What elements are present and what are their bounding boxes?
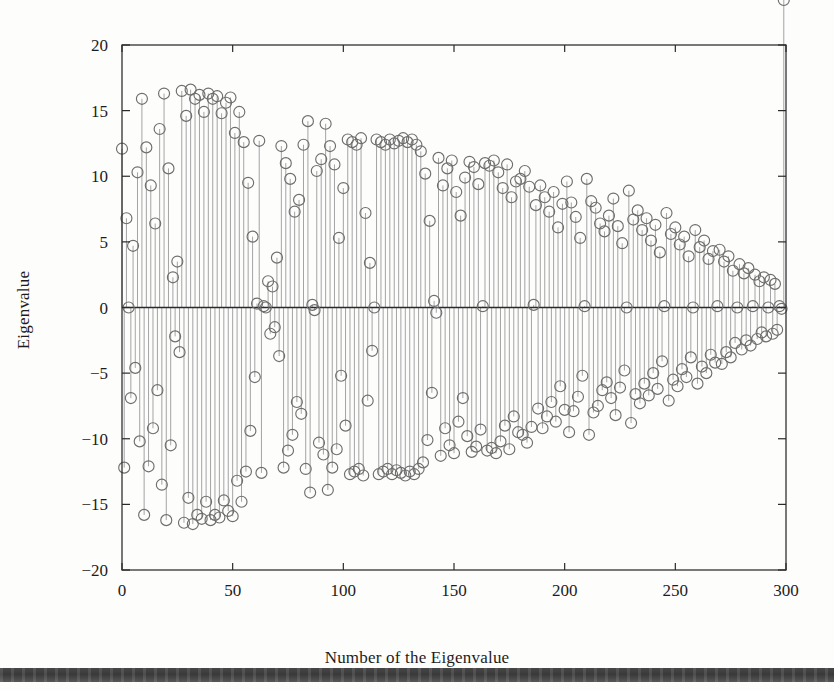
y-tick-label: 20 (91, 36, 108, 55)
y-tick-label: 5 (100, 233, 109, 252)
scan-artifact-band (0, 668, 834, 682)
x-tick-label: 0 (118, 581, 127, 600)
x-tick-label: 100 (331, 581, 357, 600)
y-tick-label: 10 (91, 167, 108, 186)
y-tick-label: 15 (91, 102, 108, 121)
y-tick-label: −5 (90, 364, 108, 383)
x-tick-label: 250 (663, 581, 689, 600)
y-tick-label: 0 (100, 299, 109, 318)
y-axis-title: Eigenvalue (14, 220, 34, 400)
x-tick-label: 150 (441, 581, 467, 600)
y-tick-label: −15 (81, 495, 108, 514)
figure-canvas: 050100150200250300−20−15−10−505101520 Nu… (0, 0, 834, 690)
x-tick-label: 300 (773, 581, 799, 600)
x-axis-title: Number of the Eigenvalue (0, 648, 834, 668)
y-tick-label: −20 (81, 561, 108, 580)
y-tick-label: −10 (81, 430, 108, 449)
x-tick-label: 50 (224, 581, 241, 600)
x-tick-label: 200 (552, 581, 578, 600)
eigenvalue-stem-plot: 050100150200250300−20−15−10−505101520 (0, 0, 834, 690)
